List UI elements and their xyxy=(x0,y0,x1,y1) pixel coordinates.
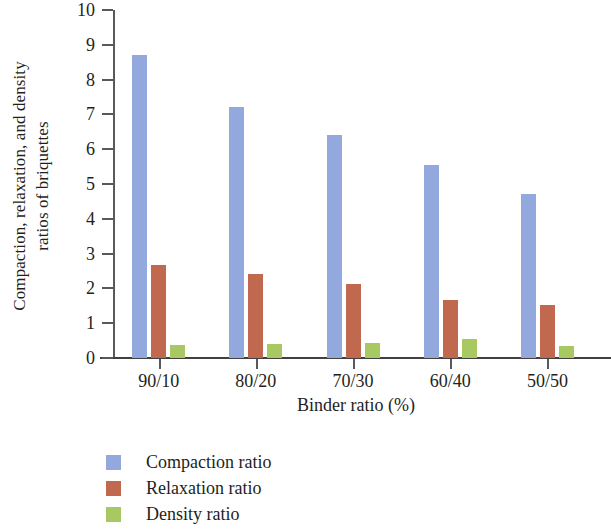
bar-compaction-60-40 xyxy=(424,165,439,358)
x-axis-title: Binder ratio (%) xyxy=(113,396,599,414)
x-axis-tick xyxy=(256,359,258,369)
bar-compaction-70-30 xyxy=(327,135,342,358)
x-axis-tick-label: 80/20 xyxy=(211,372,301,390)
y-axis-tick-label: 0 xyxy=(86,349,95,367)
x-axis-tick-label: 70/30 xyxy=(308,372,398,390)
y-axis-tick-label: 10 xyxy=(77,1,95,19)
y-axis-tick-label: 2 xyxy=(86,279,95,297)
bar-density-80-20 xyxy=(267,344,282,358)
y-axis-tick-label: 6 xyxy=(86,140,95,158)
bar-compaction-80-20 xyxy=(229,107,244,358)
bar-relaxation-70-30 xyxy=(346,284,361,358)
x-axis-tick-label: 50/50 xyxy=(502,372,592,390)
legend-item-compaction[interactable]: Compaction ratio xyxy=(106,449,271,475)
x-axis-tick xyxy=(159,359,161,369)
y-axis-tick: 10 xyxy=(102,9,113,11)
x-axis-tick xyxy=(450,359,452,369)
bar-compaction-90-10 xyxy=(132,55,147,358)
y-axis-tick: 9 xyxy=(102,44,113,46)
bar-density-60-40 xyxy=(462,339,477,358)
legend-label: Relaxation ratio xyxy=(146,479,261,497)
y-axis-tick: 8 xyxy=(102,79,113,81)
x-axis-tick xyxy=(353,359,355,369)
y-axis-tick: 2 xyxy=(102,287,113,289)
bar-chart-figure: Compaction, relaxation, and density rati… xyxy=(0,0,611,529)
y-axis-tick-label: 5 xyxy=(86,175,95,193)
y-axis-title-line-2: ratios of briquettes xyxy=(31,61,54,310)
legend-label: Density ratio xyxy=(146,505,239,523)
bar-density-70-30 xyxy=(365,343,380,358)
y-axis-tick: 1 xyxy=(102,322,113,324)
y-axis-tick: 3 xyxy=(102,253,113,255)
bar-relaxation-50-50 xyxy=(540,305,555,358)
bar-relaxation-60-40 xyxy=(443,300,458,358)
x-axis-tick-label: 90/10 xyxy=(114,372,204,390)
y-axis-title-line-1: Compaction, relaxation, and density xyxy=(8,61,31,310)
y-axis-title: Compaction, relaxation, and density rati… xyxy=(0,0,62,372)
y-axis-tick-label: 4 xyxy=(86,210,95,228)
y-axis-tick-label: 8 xyxy=(86,71,95,89)
y-axis-tick-label: 7 xyxy=(86,105,95,123)
bar-density-50-50 xyxy=(559,346,574,358)
y-axis-tick: 6 xyxy=(102,148,113,150)
y-axis-tick: 4 xyxy=(102,218,113,220)
y-axis-tick: 0 xyxy=(102,357,113,359)
chart-legend: Compaction ratioRelaxation ratioDensity … xyxy=(106,449,271,527)
bar-relaxation-80-20 xyxy=(248,274,263,358)
legend-swatch-icon xyxy=(106,481,121,496)
y-axis-tick: 7 xyxy=(102,113,113,115)
y-axis-tick-label: 3 xyxy=(86,245,95,263)
bar-density-90-10 xyxy=(170,345,185,358)
bar-compaction-50-50 xyxy=(521,194,536,358)
x-axis-tick xyxy=(547,359,549,369)
bar-relaxation-90-10 xyxy=(151,265,166,358)
legend-swatch-icon xyxy=(106,507,121,522)
plot-area: 109876543210 xyxy=(113,10,599,358)
legend-item-relaxation[interactable]: Relaxation ratio xyxy=(106,475,271,501)
x-axis-tick-label: 60/40 xyxy=(405,372,495,390)
legend-item-density[interactable]: Density ratio xyxy=(106,501,271,527)
legend-label: Compaction ratio xyxy=(146,453,271,471)
legend-swatch-icon xyxy=(106,455,121,470)
y-axis-tick-label: 1 xyxy=(86,314,95,332)
y-axis-tick-label: 9 xyxy=(86,36,95,54)
y-axis-tick: 5 xyxy=(102,183,113,185)
